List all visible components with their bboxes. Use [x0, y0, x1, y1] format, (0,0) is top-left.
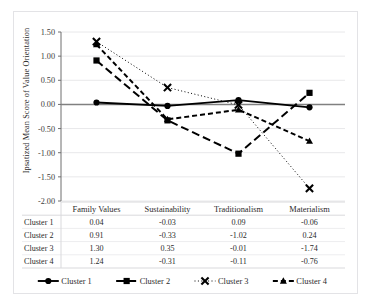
- legend-item-cluster-2[interactable]: Cluster 2: [116, 277, 170, 286]
- table-cell: 0.35: [160, 244, 174, 253]
- data-point-marker-square: [124, 278, 130, 284]
- y-tick-label: -0.50: [38, 125, 55, 134]
- table-cell: -0.01: [230, 244, 247, 253]
- y-tick-label: 0.00: [41, 100, 55, 109]
- y-tick-label: 1.50: [41, 28, 55, 37]
- category-label: Traditionalism: [214, 205, 264, 214]
- data-table-group: Family ValuesSustainabilityTraditionalis…: [22, 202, 345, 268]
- y-tick-label: -2.00: [38, 197, 55, 206]
- figure-container: Ipsatized Mean Score of Value Orientatio…: [13, 11, 358, 294]
- table-cell: 0.04: [89, 218, 103, 227]
- table-cell: -1.74: [301, 244, 318, 253]
- legend-label: Cluster 2: [140, 277, 170, 286]
- table-row-label: Cluster 2: [24, 231, 53, 240]
- data-point-marker-circle: [164, 103, 170, 109]
- table-cell: 0.09: [231, 218, 245, 227]
- gridlines-group: [61, 32, 345, 201]
- category-label: Sustainability: [144, 205, 191, 214]
- table-cell: -0.11: [230, 257, 247, 266]
- table-cell: 0.24: [302, 231, 316, 240]
- series-cluster-2: [93, 57, 312, 156]
- y-tick-label: -1.00: [38, 149, 55, 158]
- data-point-marker-circle: [93, 99, 99, 105]
- table-cell: -0.06: [301, 218, 318, 227]
- table-cell: 0.91: [89, 231, 103, 240]
- category-label: Materialism: [289, 205, 330, 214]
- table-row-label: Cluster 1: [24, 218, 53, 227]
- series-line: [97, 45, 310, 142]
- data-point-marker-x: [164, 84, 171, 91]
- data-point-marker-circle: [45, 278, 51, 284]
- table-cell: 1.24: [89, 257, 103, 266]
- legend-label: Cluster 1: [61, 277, 91, 286]
- table-row-label: Cluster 3: [24, 244, 53, 253]
- chart-plot-area: 1.501.000.500.00-0.50-1.00-1.50-2.00 Fam…: [14, 12, 359, 295]
- chart-legend: Cluster 1Cluster 2Cluster 3Cluster 4: [38, 277, 328, 286]
- table-cell: -0.31: [159, 257, 176, 266]
- data-point-marker-circle: [306, 104, 312, 110]
- data-point-marker-square: [306, 90, 312, 96]
- table-cell: -1.02: [230, 231, 247, 240]
- y-axis-tick-labels-group: 1.501.000.500.00-0.50-1.00-1.50-2.00: [38, 28, 55, 206]
- y-tick-label: 1.00: [41, 52, 55, 61]
- data-point-marker-x: [306, 185, 313, 192]
- legend-item-cluster-1[interactable]: Cluster 1: [38, 277, 92, 286]
- y-tick-label: 0.50: [41, 76, 55, 85]
- line-chart-svg: 1.501.000.500.00-0.50-1.00-1.50-2.00 Fam…: [14, 12, 359, 295]
- series-cluster-1: [93, 97, 312, 110]
- legend-label: Cluster 4: [296, 277, 327, 286]
- legend-item-cluster-3[interactable]: Cluster 3: [195, 277, 249, 286]
- series-line: [97, 60, 310, 153]
- table-cell: -0.76: [301, 257, 318, 266]
- data-point-marker-square: [93, 57, 99, 63]
- data-point-marker-x: [201, 277, 208, 284]
- table-cell: 1.30: [89, 244, 103, 253]
- legend-label: Cluster 3: [218, 277, 248, 286]
- data-point-marker-square: [235, 151, 241, 157]
- legend-item-cluster-4[interactable]: Cluster 4: [273, 277, 328, 286]
- data-series-group: [93, 38, 313, 192]
- table-cell: -0.03: [159, 218, 176, 227]
- y-tick-label: -1.50: [38, 173, 55, 182]
- category-label: Family Values: [73, 205, 121, 214]
- table-row-label: Cluster 4: [24, 257, 53, 266]
- table-cell: -0.33: [159, 231, 176, 240]
- series-line: [97, 100, 310, 107]
